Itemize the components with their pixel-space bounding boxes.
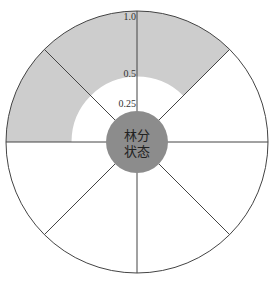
center-label-line-2: 状态: [124, 144, 150, 159]
center-label-line-1: 林分: [124, 128, 150, 143]
shaded-sector: [137, 11, 230, 96]
tick-label-0-25: 0.25: [119, 98, 137, 109]
tick-label-1-0: 1.0: [124, 11, 137, 22]
tick-label-0-5: 0.5: [124, 68, 137, 79]
radial-diagram: 林分 状态 1.0 0.5 0.25: [0, 0, 272, 282]
